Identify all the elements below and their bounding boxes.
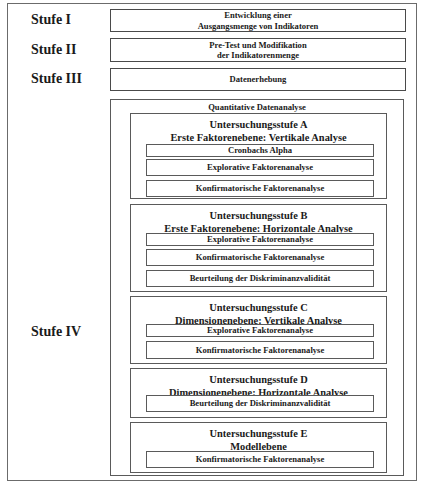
stage-label-1: Stufe I: [31, 12, 71, 28]
stage-3-box: Datenerhebung: [110, 68, 406, 91]
substage-c-title: Untersuchungsstufe C: [131, 302, 386, 314]
substage-e-item-1: Konfirmatorische Faktorenanalyse: [146, 451, 374, 468]
substage-a-item-2-label: Explorative Faktorenanalyse: [207, 162, 313, 172]
substage-a-item-2: Explorative Faktorenanalyse: [146, 159, 374, 176]
substage-d-title: Untersuchungsstufe D: [131, 374, 386, 386]
substage-a-title: Untersuchungsstufe A: [131, 119, 386, 131]
stage-label-3: Stufe III: [31, 71, 82, 87]
substage-a-subtitle: Erste Faktorenebene: Vertikale Analyse: [131, 132, 386, 144]
substage-d-item-1: Beurteilung der Diskriminanzvalidität: [146, 395, 374, 412]
substage-a-item-3: Konfirmatorische Faktorenanalyse: [146, 180, 374, 197]
stage-1-line-2: Ausgangsmenge von Indikatoren: [198, 21, 319, 31]
quantitative-analysis-title: Quantitative Datenanalyse: [111, 103, 403, 113]
stage-label-2: Stufe II: [31, 42, 77, 58]
substage-b-title: Untersuchungsstufe B: [131, 210, 386, 222]
stage-2-line-1: Pre-Test und Modifikation: [209, 40, 306, 50]
substage-a-item-1: Cronbachs Alpha: [146, 144, 374, 157]
substage-b-item-2-label: Konfirmatorische Faktorenanalyse: [196, 252, 325, 262]
substage-c-item-1-label: Explorative Faktorenanalyse: [207, 325, 313, 335]
substage-b-item-3: Beurteilung der Diskriminanzvalidität: [146, 270, 374, 287]
stage-1-line-1: Entwicklung einer: [224, 10, 292, 20]
substage-b-item-1: Explorative Faktorenanalyse: [146, 233, 374, 246]
stage-2-box: Pre-Test und Modifikation der Indikatore…: [110, 38, 406, 62]
substage-b-item-3-label: Beurteilung der Diskriminanzvalidität: [190, 273, 331, 283]
substage-c-item-1: Explorative Faktorenanalyse: [146, 324, 374, 337]
stage-3-line-1: Datenerhebung: [230, 74, 287, 84]
substage-d-item-1-label: Beurteilung der Diskriminanzvalidität: [190, 398, 331, 408]
substage-c-item-2: Konfirmatorische Faktorenanalyse: [146, 341, 374, 359]
substage-c-item-2-label: Konfirmatorische Faktorenanalyse: [196, 345, 325, 355]
substage-b-item-2: Konfirmatorische Faktorenanalyse: [146, 249, 374, 266]
substage-e-item-1-label: Konfirmatorische Faktorenanalyse: [196, 454, 325, 464]
stage-2-line-2: der Indikatorenmenge: [217, 50, 299, 60]
substage-a-item-3-label: Konfirmatorische Faktorenanalyse: [196, 183, 325, 193]
stage-label-4: Stufe IV: [31, 324, 81, 340]
substage-a-item-1-label: Cronbachs Alpha: [228, 145, 292, 155]
substage-b-item-1-label: Explorative Faktorenanalyse: [207, 234, 313, 244]
substage-e-title: Untersuchungsstufe E: [131, 428, 386, 440]
stage-1-box: Entwicklung einer Ausgangsmenge von Indi…: [110, 9, 406, 32]
